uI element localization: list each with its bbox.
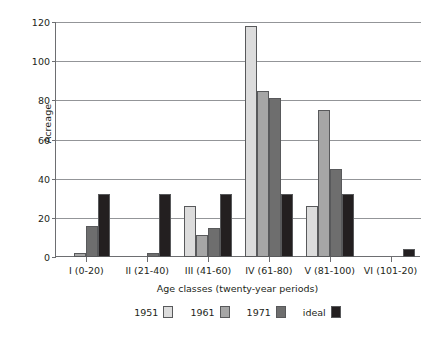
legend-entry: 1961 (190, 306, 229, 318)
legend-label: 1971 (247, 307, 271, 318)
bar (269, 98, 281, 257)
bar (281, 194, 293, 257)
bar (257, 91, 269, 257)
legend-label: 1951 (134, 307, 158, 318)
legend-entry: ideal (303, 306, 341, 318)
y-axis-tick-label: 40 (10, 173, 50, 184)
y-axis-tick-label: 20 (10, 212, 50, 223)
y-axis-tick-label: 120 (10, 17, 50, 28)
bar (147, 253, 159, 257)
bar (342, 194, 354, 257)
bar-groups: I (0-20)II (21-40)III (41-60)IV (61-80)V… (56, 22, 421, 257)
x-axis-tick-label: IV (61-80) (245, 265, 292, 276)
x-axis-tick-mark (391, 257, 392, 262)
bar (403, 249, 415, 257)
x-axis-tick-label: I (0-20) (69, 265, 104, 276)
x-axis-tick-mark (269, 257, 270, 262)
y-axis-tick-label: 100 (10, 56, 50, 67)
bar (220, 194, 232, 257)
y-axis-title: Acreage (42, 79, 53, 169)
x-axis-tick-mark (330, 257, 331, 262)
legend-swatch (331, 306, 341, 318)
bar-chart-figure: Acreage 020406080100120 I (0-20)II (21-4… (0, 0, 442, 339)
bar (184, 206, 196, 257)
bar (330, 169, 342, 257)
legend-swatch (163, 306, 173, 318)
y-axis-tick-label: 0 (10, 252, 50, 263)
bar-group: I (0-20) (56, 22, 117, 257)
bar (245, 26, 257, 257)
bar-group: V (81-100) (299, 22, 360, 257)
x-axis-tick-mark (86, 257, 87, 262)
bar-group-bars (56, 22, 117, 257)
legend-swatch (276, 306, 286, 318)
legend-label: 1961 (190, 307, 214, 318)
x-axis-tick-label: VI (101-20) (364, 265, 417, 276)
x-axis-tick-mark (208, 257, 209, 262)
bar (318, 110, 330, 257)
bar (208, 228, 220, 257)
bar (196, 235, 208, 257)
bar-group-bars (117, 22, 178, 257)
legend-entry: 1971 (247, 306, 286, 318)
x-axis-tick-label: III (41-60) (185, 265, 231, 276)
bar-group-bars (299, 22, 360, 257)
legend-entry: 1951 (134, 306, 173, 318)
bar (306, 206, 318, 257)
x-axis-title: Age classes (twenty-year periods) (55, 283, 420, 294)
legend-label: ideal (303, 307, 326, 318)
x-axis-tick-label: II (21-40) (125, 265, 169, 276)
y-axis-tick-label: 80 (10, 95, 50, 106)
bar-group: VI (101-20) (360, 22, 421, 257)
bar (86, 226, 98, 257)
bar (98, 194, 110, 257)
bar (159, 194, 171, 257)
bar-group-bars (178, 22, 239, 257)
x-axis-tick-mark (147, 257, 148, 262)
plot-area: 020406080100120 I (0-20)II (21-40)III (4… (55, 22, 420, 257)
bar-group-bars (238, 22, 299, 257)
legend-swatch (220, 306, 230, 318)
bar-group: II (21-40) (117, 22, 178, 257)
y-axis-tick-mark (52, 257, 56, 258)
chart-legend: 195119611971ideal (55, 306, 420, 318)
bar-group-bars (360, 22, 421, 257)
bar (74, 253, 86, 257)
x-axis-tick-label: V (81-100) (304, 265, 355, 276)
y-axis-tick-label: 60 (10, 134, 50, 145)
bar-group: IV (61-80) (238, 22, 299, 257)
bar-group: III (41-60) (178, 22, 239, 257)
